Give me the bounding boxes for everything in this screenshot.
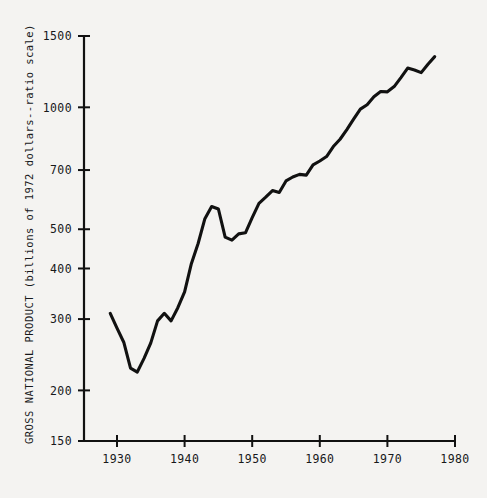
x-tick-label-1970: 1970 — [373, 452, 402, 466]
y-tick-label-1000: 1000 — [43, 101, 72, 115]
y-tick-label-300: 300 — [50, 312, 72, 326]
y-tick-label-500: 500 — [50, 222, 72, 236]
chart-background — [0, 0, 487, 498]
x-tick-label-1950: 1950 — [238, 452, 267, 466]
y-tick-label-700: 700 — [50, 163, 72, 177]
y-tick-label-150: 150 — [50, 434, 72, 448]
y-tick-label-1500: 1500 — [43, 29, 72, 43]
chart-canvas: 15020030040050070010001500 1930194019501… — [0, 0, 487, 498]
x-tick-label-1940: 1940 — [170, 452, 199, 466]
x-tick-label-1960: 1960 — [305, 452, 334, 466]
gnp-line-chart: 15020030040050070010001500 1930194019501… — [0, 0, 487, 498]
y-tick-label-200: 200 — [50, 384, 72, 398]
y-tick-label-400: 400 — [50, 262, 72, 276]
x-tick-label-1930: 1930 — [102, 452, 131, 466]
y-axis-title: GROSS NATIONAL PRODUCT (billions of 1972… — [23, 24, 35, 444]
x-tick-label-1980: 1980 — [440, 452, 469, 466]
